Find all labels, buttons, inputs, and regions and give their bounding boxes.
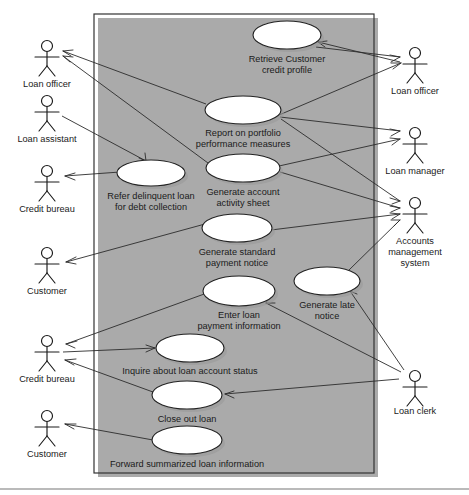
- use-case-ellipse: [156, 334, 224, 362]
- actor-label: Loan manager: [385, 166, 444, 176]
- system-boundary: [94, 14, 378, 477]
- actor-leg-left: [39, 273, 47, 283]
- actor-leg-left: [407, 396, 415, 406]
- arrowhead-ams-c: [390, 213, 400, 219]
- use-case-ellipse: [294, 267, 360, 295]
- actor-label: Loan clerk: [394, 406, 437, 416]
- actor-loan-officer-right[interactable]: Loan officer: [391, 48, 439, 97]
- actor-leg-left: [39, 121, 47, 131]
- arrowhead-ams-d: [391, 220, 400, 226]
- actor-leg-right: [47, 66, 55, 76]
- actor-head-icon: [42, 336, 53, 347]
- actor-label: Customer: [27, 449, 67, 459]
- use-case-label-line-2: for debt collection: [115, 202, 187, 212]
- use-case-close-out-loan[interactable]: Close out loan: [152, 381, 225, 424]
- actor-leg-right: [415, 153, 423, 163]
- actor-label: Credit bureau: [19, 374, 75, 384]
- use-case-ellipse: [202, 214, 272, 242]
- use-case-label-line-2: notice: [315, 311, 340, 321]
- use-case-label-line-1: Refer delinquent loan: [107, 191, 194, 201]
- actor-loan-assistant[interactable]: Loan assistant: [17, 96, 77, 145]
- use-case-label-line-2: performance measures: [196, 139, 291, 149]
- actor-leg-left: [39, 436, 47, 446]
- use-case-label-line-1: Enter loan: [218, 310, 260, 320]
- arrowhead-ams-a: [390, 198, 400, 204]
- use-case-label-line-1: Inquire about loan account status: [122, 366, 258, 376]
- use-case-label-line-2: credit profile: [262, 65, 312, 75]
- actor-accounts-management-system[interactable]: Accounts management system: [388, 198, 442, 269]
- actor-leg-right: [47, 436, 55, 446]
- actor-leg-right: [47, 121, 55, 131]
- actor-credit-bureau-upper[interactable]: Credit bureau: [19, 166, 75, 215]
- use-case-label-line-1: Generate standard: [199, 247, 276, 257]
- actor-label-line-1: Accounts: [396, 236, 434, 246]
- actor-head-icon: [42, 41, 53, 52]
- actor-head-icon: [42, 166, 53, 177]
- actor-head-icon: [42, 248, 53, 259]
- use-case-label-line-1: Generate late: [299, 300, 355, 310]
- actor-leg-left: [39, 66, 47, 76]
- arrowhead-loan-officer-left-b: [63, 56, 73, 62]
- actor-leg-left: [407, 153, 415, 163]
- actor-customer-lower[interactable]: Customer: [27, 411, 67, 460]
- use-case-label-line-2: payment notice: [206, 258, 268, 268]
- actor-label: Loan assistant: [17, 134, 77, 144]
- use-case-ellipse: [203, 276, 275, 306]
- arrowhead-ams-b: [390, 206, 400, 212]
- use-case-label-line-1: Generate account: [206, 187, 279, 197]
- actor-leg-right: [47, 273, 55, 283]
- use-case-ellipse: [253, 21, 321, 49]
- actor-head-icon: [410, 128, 421, 139]
- actor-head-icon: [410, 371, 421, 382]
- actor-customer-upper[interactable]: Customer: [27, 248, 67, 297]
- use-case-label-line-2: payment information: [197, 321, 280, 331]
- actor-label: Loan officer: [391, 86, 439, 96]
- use-case-ellipse: [206, 154, 280, 182]
- arrowhead-loan-officer-right-b: [391, 63, 401, 69]
- actor-loan-officer-left[interactable]: Loan officer: [23, 41, 71, 90]
- arrowhead-credit-bureau-lower-a: [66, 341, 77, 348]
- actor-loan-manager[interactable]: Loan manager: [385, 128, 444, 177]
- actor-leg-right: [415, 223, 423, 233]
- actor-leg-left: [39, 361, 47, 371]
- arrowhead-credit-bureau-upper: [65, 173, 75, 180]
- actor-head-icon: [42, 96, 53, 107]
- arrowhead-loan-manager-b: [390, 138, 400, 145]
- use-case-label-line-2: activity sheet: [216, 198, 270, 208]
- actor-head-icon: [410, 198, 421, 209]
- actor-leg-right: [415, 73, 423, 83]
- actor-leg-left: [39, 191, 47, 201]
- actor-label-line-2: management: [388, 247, 442, 257]
- use-case-ellipse: [117, 160, 185, 186]
- actor-head-icon: [42, 411, 53, 422]
- actor-label: Customer: [27, 286, 67, 296]
- actor-leg-right: [47, 191, 55, 201]
- use-case-label-line-1: Forward summarized loan information: [110, 459, 264, 469]
- actor-head-icon: [410, 48, 421, 59]
- actor-leg-left: [407, 73, 415, 83]
- use-case-ellipse: [152, 381, 222, 409]
- use-case-label-line-1: Close out loan: [158, 414, 217, 424]
- actor-label: Credit bureau: [19, 204, 75, 214]
- actor-leg-right: [415, 396, 423, 406]
- actor-label-line-3: system: [400, 258, 429, 268]
- actor-label: Loan officer: [23, 79, 71, 89]
- actor-loan-clerk[interactable]: Loan clerk: [394, 371, 437, 417]
- use-case-label-line-1: Retrieve Customer: [249, 54, 326, 64]
- use-case-diagram-root: Retrieve Customer credit profile Report …: [0, 0, 469, 495]
- actor-leg-left: [407, 223, 415, 233]
- actor-leg-right: [47, 361, 55, 371]
- uml-diagram-canvas: Retrieve Customer credit profile Report …: [0, 0, 469, 495]
- use-case-ellipse: [152, 426, 222, 454]
- use-case-label-line-1: Report on portfolio: [205, 128, 281, 138]
- use-case-ellipse: [205, 96, 281, 124]
